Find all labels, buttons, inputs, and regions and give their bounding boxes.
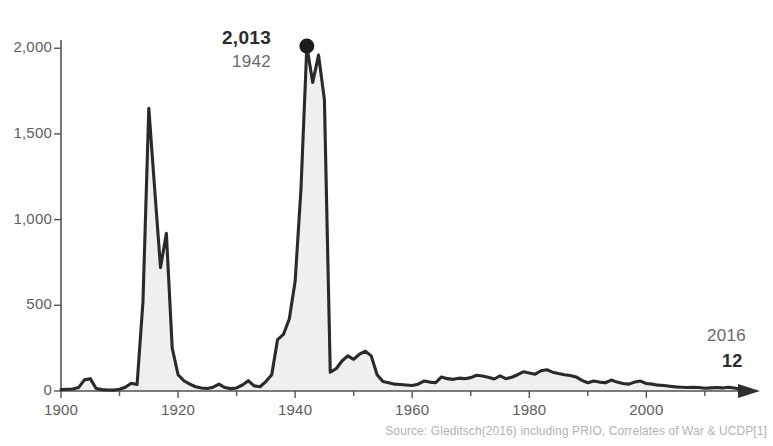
x-tick-label: 1900	[31, 401, 91, 418]
source-note: Source: Gleditsch(2016) including PRIO, …	[385, 424, 767, 438]
y-tick-label: 500	[0, 295, 52, 312]
area-fill-path	[61, 46, 740, 391]
x-tick-label: 1960	[382, 401, 442, 418]
battle-deaths-chart: 05001,0001,5002,000 19001920194019601980…	[0, 0, 773, 446]
y-axis-ticks	[54, 48, 61, 391]
peak-year-annotation: 1942	[232, 52, 271, 72]
y-tick-label: 1,000	[0, 210, 52, 227]
x-axis-ticks	[61, 391, 705, 398]
end-value-annotation: 12	[722, 351, 743, 372]
x-tick-label: 2000	[616, 401, 676, 418]
chart-plot-area	[0, 0, 773, 446]
x-tick-label: 1940	[265, 401, 325, 418]
y-tick-label: 0	[0, 381, 52, 398]
area-fill-group	[61, 46, 740, 391]
y-tick-label: 2,000	[0, 38, 52, 55]
x-tick-label: 1980	[499, 401, 559, 418]
peak-marker-dot	[299, 39, 314, 54]
x-axis-arrow-icon	[738, 384, 760, 398]
x-tick-label: 1920	[148, 401, 208, 418]
y-tick-label: 1,500	[0, 124, 52, 141]
peak-value-annotation: 2,013	[222, 27, 271, 49]
end-year-annotation: 2016	[707, 326, 746, 346]
